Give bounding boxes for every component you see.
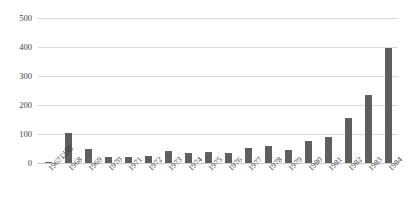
x-tick-slot: 1976 — [218, 165, 238, 211]
bar-slot — [238, 18, 258, 163]
x-tick-slot: 1974 — [178, 165, 198, 211]
x-tick-slot: 1980 — [298, 165, 318, 211]
bar-slot — [178, 18, 198, 163]
bar-slot — [318, 18, 338, 163]
y-tick-label: 400 — [0, 43, 32, 52]
bar[interactable] — [325, 137, 332, 163]
bar-chart: 5004003002001000 1967以前19681969197019711… — [0, 0, 413, 211]
bar-slot — [338, 18, 358, 163]
bar[interactable] — [385, 48, 392, 163]
x-tick-slot: 1977 — [238, 165, 258, 211]
x-tick-slot: 1981 — [318, 165, 338, 211]
x-tick-slot: 1970 — [98, 165, 118, 211]
bar-slot — [58, 18, 78, 163]
y-tick-label: 500 — [0, 14, 32, 23]
x-tick-slot: 1967以前 — [38, 165, 58, 211]
bar-slot — [378, 18, 398, 163]
y-tick-label: 100 — [0, 130, 32, 139]
bar-series — [38, 18, 398, 163]
bar-slot — [38, 18, 58, 163]
x-tick-slot: 1973 — [158, 165, 178, 211]
y-tick-label: 200 — [0, 101, 32, 110]
x-tick-slot: 1975 — [198, 165, 218, 211]
bar-slot — [198, 18, 218, 163]
bar-slot — [158, 18, 178, 163]
bar-slot — [218, 18, 238, 163]
x-tick-slot: 1971 — [118, 165, 138, 211]
x-tick-slot: 1978 — [258, 165, 278, 211]
x-tick-slot: 1968 — [58, 165, 78, 211]
x-tick-slot: 1979 — [278, 165, 298, 211]
x-tick-slot: 1983 — [358, 165, 378, 211]
bar[interactable] — [365, 95, 372, 163]
x-tick-slot: 1969 — [78, 165, 98, 211]
bar-slot — [258, 18, 278, 163]
bar-slot — [138, 18, 158, 163]
plot-area — [38, 18, 398, 163]
bar[interactable] — [305, 141, 312, 163]
bar-slot — [78, 18, 98, 163]
x-tick-slot: 1984 — [378, 165, 398, 211]
bar-slot — [98, 18, 118, 163]
bar[interactable] — [345, 118, 352, 163]
bar-slot — [118, 18, 138, 163]
x-axis: 1967以前1968196919701971197219731974197519… — [38, 165, 398, 211]
x-tick-slot: 1972 — [138, 165, 158, 211]
x-tick-slot: 1982 — [338, 165, 358, 211]
y-axis: 5004003002001000 — [0, 0, 34, 211]
bar-slot — [298, 18, 318, 163]
y-tick-label: 300 — [0, 72, 32, 81]
y-tick-label: 0 — [0, 159, 32, 168]
bar-slot — [278, 18, 298, 163]
bar-slot — [358, 18, 378, 163]
